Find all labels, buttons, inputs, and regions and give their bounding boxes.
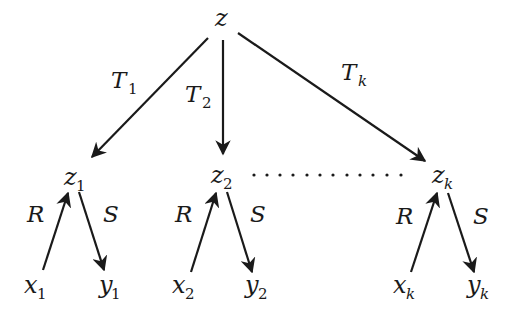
label-rk: R <box>395 203 413 229</box>
edge-label-t1: T 1 <box>111 67 138 98</box>
svg-text:k: k <box>444 175 453 193</box>
edge-r2 <box>191 193 216 272</box>
svg-text:2: 2 <box>185 285 195 303</box>
edge-sk <box>448 193 474 272</box>
leaf-y1: y 1 <box>98 271 121 303</box>
label-r1: R <box>26 201 44 227</box>
root-node: z <box>214 4 228 32</box>
svg-text:x: x <box>24 271 38 299</box>
svg-text:T: T <box>185 81 202 107</box>
edge-rk <box>411 193 437 272</box>
label-sk: S <box>473 203 489 229</box>
svg-text:2: 2 <box>258 285 268 303</box>
edge-tk <box>238 33 425 161</box>
svg-text:k: k <box>358 72 367 90</box>
edge-s1 <box>79 192 104 270</box>
svg-text:z: z <box>210 161 224 189</box>
svg-text:k: k <box>406 285 415 303</box>
svg-text:1: 1 <box>111 285 121 303</box>
edge-s2 <box>227 192 252 272</box>
leaf-y2: y 2 <box>244 271 268 303</box>
edge-r1 <box>43 193 68 270</box>
svg-text:y: y <box>466 271 481 299</box>
svg-text:1: 1 <box>37 285 47 303</box>
leaf-x2: x 2 <box>172 271 195 303</box>
node-zk: z k <box>431 161 453 193</box>
node-z1: z 1 <box>63 163 86 195</box>
edge-label-t2: T 2 <box>185 81 212 112</box>
svg-text:z: z <box>431 161 445 189</box>
svg-text:T: T <box>341 59 358 85</box>
svg-text:1: 1 <box>128 80 138 98</box>
svg-text:2: 2 <box>202 94 212 112</box>
leaf-x1: x 1 <box>24 271 47 303</box>
leaf-xk: x k <box>393 271 415 303</box>
svg-text:z: z <box>63 163 77 191</box>
svg-text:1: 1 <box>76 177 86 195</box>
root-label: z <box>214 4 228 32</box>
svg-text:x: x <box>172 271 186 299</box>
label-s1: S <box>103 201 119 227</box>
node-z2: z 2 <box>210 161 233 193</box>
svg-text:y: y <box>244 271 259 299</box>
svg-text:2: 2 <box>223 175 233 193</box>
edge-label-tk: T k <box>341 59 367 90</box>
tree-diagram: z T 1 T 2 T k z 1 z 2 z k <box>0 0 516 314</box>
leaf-yk: y k <box>466 271 489 303</box>
ellipsis-dots <box>252 173 402 176</box>
svg-text:T: T <box>111 67 128 93</box>
svg-text:x: x <box>393 271 407 299</box>
label-r2: R <box>174 201 192 227</box>
svg-text:k: k <box>480 285 489 303</box>
label-s2: S <box>250 201 266 227</box>
